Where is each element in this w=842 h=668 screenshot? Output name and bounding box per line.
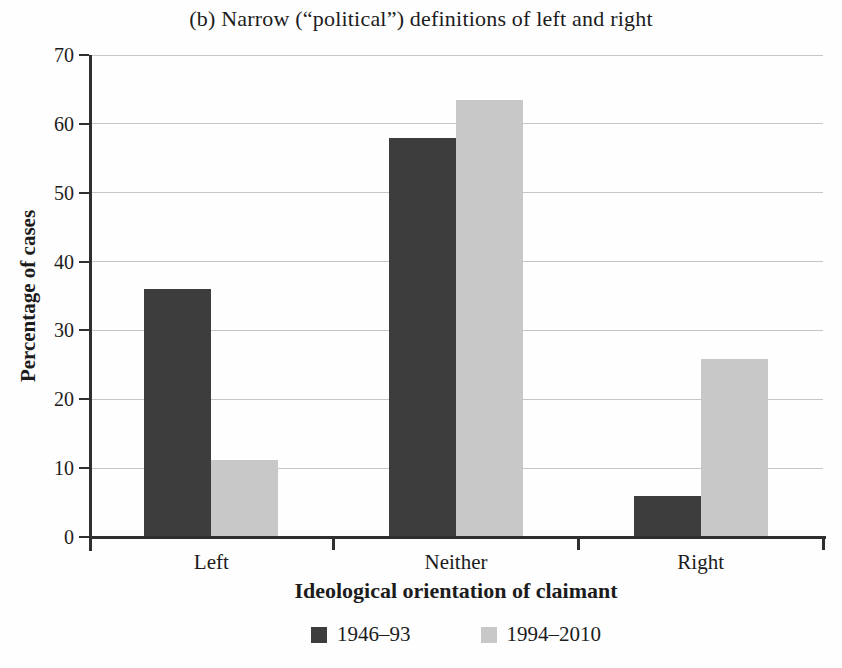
x-tick-label-left: Left xyxy=(121,549,301,575)
y-tick-label-40: 40 xyxy=(32,250,74,274)
y-tick-label-20: 20 xyxy=(32,387,74,411)
y-tick-label-30: 30 xyxy=(32,318,74,342)
y-tick-label-60: 60 xyxy=(32,112,74,136)
y-tick-label-50: 50 xyxy=(32,181,74,205)
x-tick-2 xyxy=(577,537,580,550)
y-tick-20 xyxy=(79,398,89,400)
gridline-70 xyxy=(89,55,823,56)
legend-swatch-1946-93 xyxy=(311,627,327,643)
legend-item-1994-2010: 1994–2010 xyxy=(481,622,602,647)
x-tick-1 xyxy=(332,537,335,550)
chart-title: (b) Narrow (“political”) definitions of … xyxy=(0,6,842,32)
y-tick-label-10: 10 xyxy=(32,456,74,480)
bar-neither-1946-93 xyxy=(389,138,456,537)
x-tick-3 xyxy=(822,537,825,550)
x-axis-label: Ideological orientation of claimant xyxy=(89,578,823,604)
legend-item-1946-93: 1946–93 xyxy=(311,622,411,647)
bar-left-1994-2010 xyxy=(211,460,278,537)
y-tick-label-0: 0 xyxy=(32,525,74,549)
legend-label-1946-93: 1946–93 xyxy=(337,622,411,647)
y-tick-label-70: 70 xyxy=(32,43,74,67)
bar-left-1946-93 xyxy=(144,289,211,537)
y-axis-label: Percentage of cases xyxy=(16,210,41,382)
x-tick-label-right: Right xyxy=(611,549,791,575)
y-tick-30 xyxy=(79,329,89,331)
bar-neither-1994-2010 xyxy=(456,100,523,537)
bar-right-1994-2010 xyxy=(701,359,768,537)
y-tick-0 xyxy=(79,536,89,538)
y-tick-40 xyxy=(79,261,89,263)
legend-label-1994-2010: 1994–2010 xyxy=(507,622,602,647)
bar-chart: (b) Narrow (“political”) definitions of … xyxy=(0,0,842,668)
legend: 1946–931994–2010 xyxy=(89,622,823,647)
x-tick-label-neither: Neither xyxy=(366,549,546,575)
bar-right-1946-93 xyxy=(634,496,701,537)
y-tick-50 xyxy=(79,192,89,194)
x-axis-line xyxy=(89,536,826,539)
y-axis-line xyxy=(89,55,92,551)
y-tick-10 xyxy=(79,467,89,469)
legend-swatch-1994-2010 xyxy=(481,627,497,643)
y-tick-70 xyxy=(79,54,89,56)
y-tick-60 xyxy=(79,123,89,125)
